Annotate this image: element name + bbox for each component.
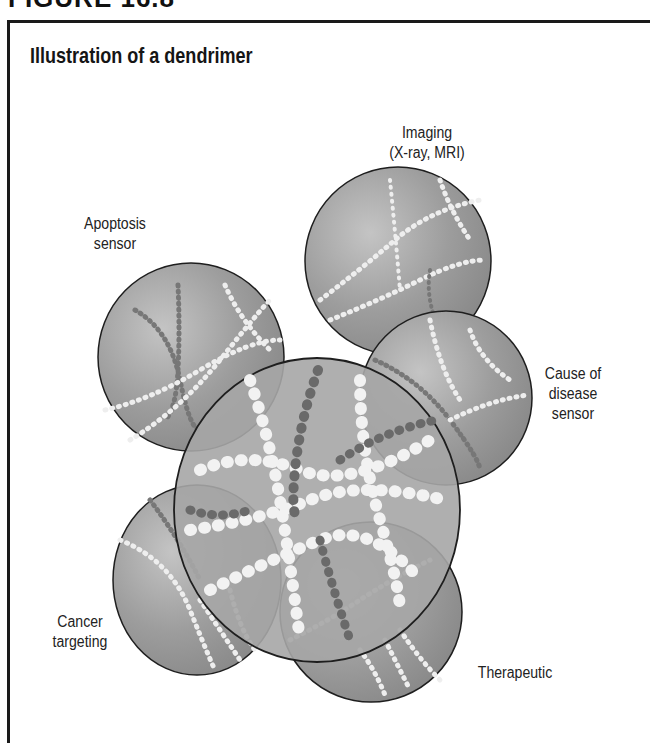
dendrimer-core-sphere [174, 358, 460, 662]
label-apoptosis-sensor: Apoptosis sensor [75, 214, 154, 254]
label-cancer-line2: targeting [45, 632, 115, 652]
label-cause-line3: sensor [538, 404, 608, 424]
label-apoptosis-line1: Apoptosis [75, 214, 154, 234]
label-imaging: Imaging (X-ray, MRI) [379, 123, 476, 163]
label-imaging-line2: (X-ray, MRI) [379, 143, 476, 163]
label-cancer-targeting: Cancer targeting [45, 612, 115, 652]
label-cancer-line1: Cancer [45, 612, 115, 632]
label-therapeutic-line1: Therapeutic [471, 663, 559, 683]
label-therapeutic: Therapeutic [471, 663, 559, 683]
label-cause-line2: disease [538, 384, 608, 404]
label-cause-of-disease-sensor: Cause of disease sensor [538, 364, 608, 424]
label-apoptosis-line2: sensor [75, 234, 154, 254]
label-cause-line1: Cause of [538, 364, 608, 384]
label-imaging-line1: Imaging [379, 123, 476, 143]
